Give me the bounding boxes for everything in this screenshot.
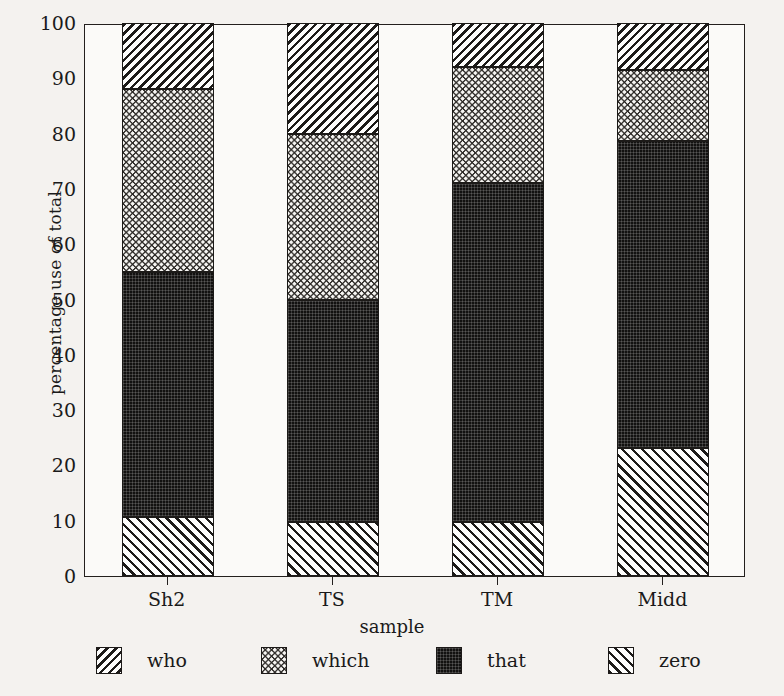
y-tick-label: 90	[30, 69, 76, 88]
bar-segment-which	[452, 67, 544, 183]
y-tick-label: 50	[30, 291, 76, 310]
stacked-bar-chart: percentage use of total 0102030405060708…	[0, 0, 784, 696]
x-axis-label: sample	[0, 616, 784, 637]
legend-label: who	[147, 649, 187, 671]
legend-item-that[interactable]: that	[436, 645, 526, 675]
bar-segment-zero	[122, 517, 214, 576]
x-tick-mark	[497, 577, 498, 585]
y-tick-label: 40	[30, 346, 76, 365]
legend-label: zero	[659, 649, 701, 671]
bar-segment-zero	[452, 522, 544, 576]
x-tick-label-ts: TS	[262, 588, 402, 610]
y-tick-label: 0	[30, 567, 76, 586]
bar-segment-which	[122, 89, 214, 271]
bar-tm	[452, 25, 544, 576]
x-tick-mark	[662, 577, 663, 585]
x-tick-mark	[167, 577, 168, 585]
bar-sh2	[122, 25, 214, 576]
x-tick-label-sh2: Sh2	[97, 588, 237, 610]
chart-legend: whowhichthatzero	[96, 645, 756, 679]
bar-segment-that	[452, 183, 544, 521]
y-tick-label: 80	[30, 125, 76, 144]
y-tick-label: 100	[30, 14, 76, 33]
y-tick-label: 20	[30, 456, 76, 475]
legend-label: which	[312, 649, 369, 671]
x-tick-label-midd: Midd	[592, 588, 732, 610]
legend-swatch-that-icon	[436, 647, 462, 674]
y-tick-label: 60	[30, 235, 76, 254]
legend-label: that	[487, 649, 526, 671]
y-tick-label: 30	[30, 401, 76, 420]
bar-segment-that	[287, 300, 379, 522]
plot-area	[84, 24, 745, 577]
y-tick-label: 70	[30, 180, 76, 199]
bar-segment-that	[122, 272, 214, 517]
y-axis-ticks: 0102030405060708090100	[20, 0, 76, 696]
bar-segment-who	[452, 23, 544, 67]
y-tick-label: 10	[30, 512, 76, 531]
bar-ts	[287, 25, 379, 576]
bar-segment-which	[287, 134, 379, 300]
bar-segment-which	[617, 70, 709, 141]
legend-item-who[interactable]: who	[96, 645, 187, 675]
bar-segment-who	[122, 23, 214, 89]
legend-item-zero[interactable]: zero	[608, 645, 701, 675]
bar-segment-zero	[617, 448, 709, 576]
bar-segment-that	[617, 141, 709, 448]
legend-swatch-zero-icon	[608, 647, 634, 674]
bar-midd	[617, 25, 709, 576]
bar-segment-who	[287, 23, 379, 134]
bar-segment-zero	[287, 522, 379, 576]
x-tick-mark	[332, 577, 333, 585]
legend-swatch-who-icon	[96, 647, 122, 674]
legend-swatch-which-icon	[261, 647, 287, 674]
bar-segment-who	[617, 23, 709, 70]
x-tick-label-tm: TM	[427, 588, 567, 610]
legend-item-which[interactable]: which	[261, 645, 369, 675]
